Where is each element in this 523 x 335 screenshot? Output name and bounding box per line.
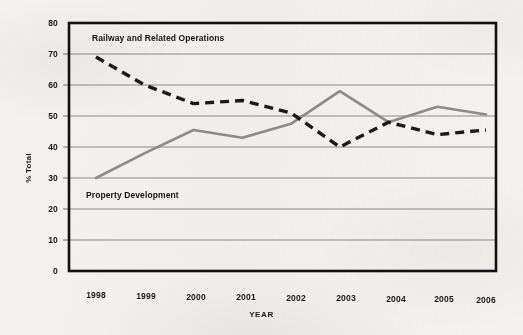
series-line-property-development [96, 91, 486, 178]
x-axis-title: YEAR [0, 310, 523, 319]
x-tick-label: 2002 [273, 293, 319, 303]
series-annotation-property: Property Development [86, 190, 179, 200]
gridlines [69, 54, 496, 240]
x-tick-label: 2006 [463, 295, 509, 305]
x-tick-label: 1999 [123, 291, 169, 301]
x-tick-label: 1998 [73, 290, 119, 300]
x-tick-label: 2004 [373, 294, 419, 304]
x-tick-label: 2000 [173, 292, 219, 302]
chart-figure: 80 70 60 50 40 30 20 10 0 % Total [0, 0, 523, 335]
x-tick-label: 2003 [323, 293, 369, 303]
x-tick-label: 2005 [421, 294, 467, 304]
x-tick-label: 2001 [223, 292, 269, 302]
plot-canvas [0, 0, 523, 335]
series-line-railway-operations [96, 57, 486, 147]
series-annotation-railway: Railway and Related Operations [92, 33, 224, 43]
